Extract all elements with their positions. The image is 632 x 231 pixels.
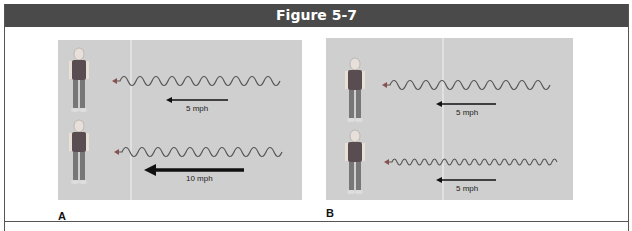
panel-b: 5 mph 5 mph xyxy=(326,38,573,200)
sound-wave xyxy=(116,77,280,86)
person-icon xyxy=(345,130,365,194)
speed-label: 10 mph xyxy=(186,174,213,183)
person-icon xyxy=(345,58,365,122)
panel-label-b: B xyxy=(326,207,334,219)
caption-frame xyxy=(4,222,629,231)
sound-wave xyxy=(118,148,282,157)
speed-label: 5 mph xyxy=(456,108,478,117)
panel-a-illustration xyxy=(58,40,302,200)
sound-wave xyxy=(386,81,550,90)
speed-label: 5 mph xyxy=(186,104,208,113)
panel-b-illustration xyxy=(326,38,573,200)
panel-label-a: A xyxy=(58,210,66,222)
speed-label: 5 mph xyxy=(456,184,478,193)
panel-a: 5 mph 10 mph xyxy=(58,40,302,200)
person-icon xyxy=(69,48,89,112)
sound-wave xyxy=(388,159,557,165)
person-icon xyxy=(69,120,89,184)
